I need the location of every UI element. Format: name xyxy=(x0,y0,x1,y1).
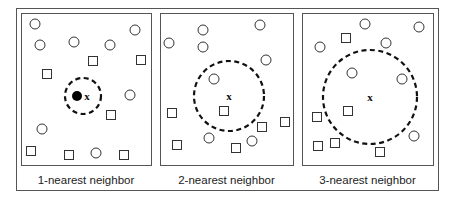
query-point-label: x xyxy=(84,90,90,102)
class-circle-point xyxy=(69,37,79,47)
class-circle-point xyxy=(130,25,140,35)
panel-caption: 1-nearest neighbor xyxy=(38,174,135,186)
class-square-point xyxy=(313,113,322,122)
class-circle-point xyxy=(360,19,370,29)
class-square-point xyxy=(137,56,146,65)
class-circle-point xyxy=(91,148,101,158)
class-square-point xyxy=(342,34,351,43)
class-square-point xyxy=(314,142,323,151)
class-circle-point xyxy=(347,68,357,78)
class-circle-point xyxy=(409,131,419,141)
class-square-point xyxy=(107,111,116,120)
class-circle-point xyxy=(204,133,214,143)
query-point-label: x xyxy=(226,90,232,102)
class-circle-point xyxy=(414,22,424,32)
knn-figure: x1-nearest neighborx2-nearest neighborx3… xyxy=(0,0,454,204)
class-square-point xyxy=(281,118,290,127)
class-circle-point xyxy=(164,38,174,48)
class-square-point xyxy=(344,107,353,116)
class-circle-point xyxy=(125,90,135,100)
class-square-point xyxy=(43,70,52,79)
class-square-point xyxy=(89,57,98,66)
class-square-point xyxy=(120,151,129,160)
panel-caption: 3-nearest neighbor xyxy=(319,174,416,186)
class-square-point xyxy=(331,139,340,148)
class-circle-point xyxy=(315,42,325,52)
class-square-point xyxy=(258,123,267,132)
nearest-neighbor-dot xyxy=(72,91,82,101)
class-circle-point xyxy=(261,55,271,65)
class-square-point xyxy=(232,144,241,153)
class-square-point xyxy=(168,109,177,118)
class-square-point xyxy=(220,107,229,116)
class-circle-point xyxy=(381,38,391,48)
class-square-point xyxy=(376,148,385,157)
panel-caption: 2-nearest neighbor xyxy=(178,174,275,186)
class-square-point xyxy=(65,151,74,160)
class-circle-point xyxy=(198,25,208,35)
class-square-point xyxy=(173,141,182,150)
class-circle-point xyxy=(105,40,115,50)
class-circle-point xyxy=(397,74,407,84)
class-circle-point xyxy=(255,20,265,30)
class-circle-point xyxy=(198,42,208,52)
class-circle-point xyxy=(247,136,257,146)
class-circle-point xyxy=(35,40,45,50)
class-circle-point xyxy=(37,124,47,134)
class-circle-point xyxy=(30,19,40,29)
class-circle-point xyxy=(209,74,219,84)
class-square-point xyxy=(27,147,36,156)
query-point-label: x xyxy=(367,91,373,103)
